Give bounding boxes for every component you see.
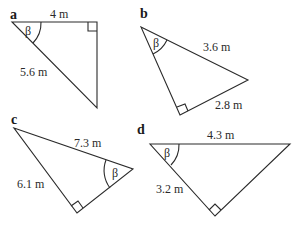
angle-beta-c: β xyxy=(112,166,118,180)
side-label-b-bottom: 2.8 m xyxy=(215,98,243,112)
triangle-c: c β 7.3 m 6.1 m xyxy=(11,112,133,213)
angle-beta-d: β xyxy=(164,146,170,160)
triangle-d-label: d xyxy=(137,122,145,137)
side-label-a-hypotenuse: 5.6 m xyxy=(20,65,48,79)
triangle-c-label: c xyxy=(11,112,17,127)
side-label-c-hypotenuse: 7.3 m xyxy=(74,136,102,150)
side-label-a-top: 4 m xyxy=(50,7,69,21)
angle-arc-a xyxy=(33,22,41,43)
angle-arc-c xyxy=(104,160,110,188)
trig-diagram: a β 4 m 5.6 m b β 3.6 m 2.8 m c β 7.3 m … xyxy=(0,0,298,227)
side-label-d-left: 3.2 m xyxy=(156,182,184,196)
side-label-d-hypotenuse: 4.3 m xyxy=(207,128,235,142)
triangle-b-label: b xyxy=(140,6,148,21)
right-angle-marker-a xyxy=(88,22,97,31)
right-angle-marker-d xyxy=(209,204,221,210)
triangle-b: b β 3.6 m 2.8 m xyxy=(140,6,248,115)
triangle-d-shape xyxy=(150,144,290,216)
triangle-d: d β 4.3 m 3.2 m xyxy=(137,122,290,216)
side-label-b-hypotenuse: 3.6 m xyxy=(203,40,231,54)
triangle-a-label: a xyxy=(10,7,17,22)
angle-beta-a: β xyxy=(25,24,31,38)
side-label-c-left: 6.1 m xyxy=(17,177,45,191)
right-angle-marker-b xyxy=(177,104,188,111)
triangle-a: a β 4 m 5.6 m xyxy=(10,7,97,108)
angle-arc-d xyxy=(171,144,179,165)
angle-beta-b: β xyxy=(153,36,159,50)
